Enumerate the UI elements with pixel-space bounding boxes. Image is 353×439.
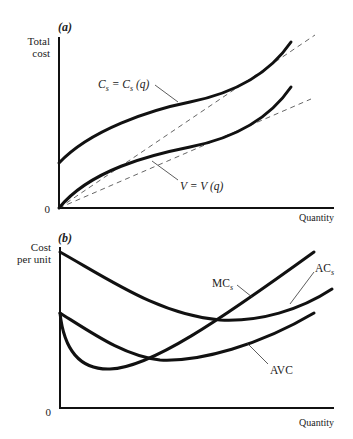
panel-a-y-title-line1: Total bbox=[28, 35, 50, 47]
average-variable-cost-label: AVC bbox=[270, 364, 293, 376]
average-variable-cost-curve bbox=[60, 313, 314, 360]
panel-a-origin-label: 0 bbox=[45, 203, 51, 215]
average-cost-curve bbox=[60, 252, 332, 320]
panel-a-x-title: Quantity bbox=[299, 212, 334, 223]
total-cost-leader-line bbox=[155, 85, 178, 102]
panel-a: (a) Total cost 0 Quantity Cs = Cs (q) V … bbox=[28, 20, 334, 223]
marginal-cost-label: MCs bbox=[212, 277, 233, 292]
total-cost-curve bbox=[59, 42, 291, 163]
panel-b-x-title: Quantity bbox=[299, 417, 334, 428]
average-cost-leader-line bbox=[290, 272, 314, 304]
panel-b-y-title-line1: Cost bbox=[31, 241, 51, 253]
average-cost-label: ACs bbox=[315, 262, 334, 277]
total-cost-label: Cs = Cs (q) bbox=[98, 78, 150, 93]
panel-a-label: (a) bbox=[58, 20, 72, 34]
marginal-cost-curve bbox=[60, 252, 314, 369]
average-variable-cost-leader-line bbox=[247, 343, 268, 364]
variable-cost-leader-line bbox=[152, 161, 178, 180]
panel-b: (b) Cost per unit 0 Quantity MCs ACs AVC bbox=[17, 231, 334, 428]
variable-cost-label: V = V (q) bbox=[180, 180, 224, 193]
panel-a-y-title-line2: cost bbox=[32, 47, 50, 59]
panel-b-label: (b) bbox=[58, 231, 72, 245]
panel-b-origin-label: 0 bbox=[46, 406, 52, 418]
cost-curves-diagram: (a) Total cost 0 Quantity Cs = Cs (q) V … bbox=[0, 0, 353, 439]
marginal-cost-leader-line bbox=[237, 285, 252, 297]
panel-b-y-title-line2: per unit bbox=[17, 253, 51, 265]
